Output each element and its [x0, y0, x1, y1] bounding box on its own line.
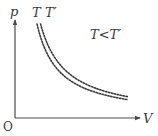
- temperature-relation-label: T<T′: [90, 27, 121, 42]
- curve-label-T-prime: T′: [45, 5, 57, 20]
- y-axis-label: p: [10, 4, 19, 19]
- pv-isotherm-diagram: p V O T T′ T<T′: [0, 0, 158, 136]
- x-axis-label: V: [143, 111, 154, 126]
- origin-label: O: [3, 120, 13, 134]
- curve-label-T: T: [32, 5, 42, 20]
